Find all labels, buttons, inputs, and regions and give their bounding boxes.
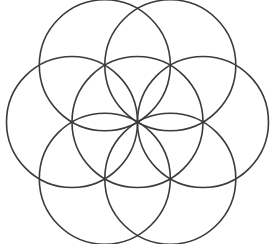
seed-of-life-figure bbox=[0, 0, 275, 244]
seed-of-life-svg bbox=[0, 0, 275, 244]
